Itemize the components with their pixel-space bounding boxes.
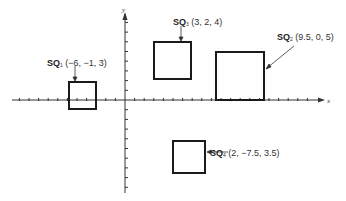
label-sq4: SQ4 (2, −7.5, 3.5) bbox=[210, 148, 280, 160]
y-axis bbox=[125, 14, 128, 193]
label-sq1-sub: 1 bbox=[60, 62, 63, 68]
label-sq3-name: SQ bbox=[173, 17, 186, 27]
label-sq1-coords: (−6, −1, 3) bbox=[65, 58, 107, 68]
label-sq2-coords: (9.5, 0, 5) bbox=[295, 32, 334, 42]
x-axis-arrow-icon bbox=[318, 98, 325, 103]
square-sq4 bbox=[173, 141, 205, 173]
arrowhead-sq2-icon bbox=[266, 64, 271, 69]
label-sq3: SQ3 (3, 2, 4) bbox=[173, 17, 222, 29]
label-sq4-coords: (2, −7.5, 3.5) bbox=[228, 148, 279, 158]
x-axis bbox=[12, 98, 318, 101]
square-sq2 bbox=[216, 52, 264, 100]
label-sq2: SQ2 (9.5, 0, 5) bbox=[277, 32, 334, 44]
label-sq2-name: SQ bbox=[277, 32, 290, 42]
label-sq1: SQ1 (−6, −1, 3) bbox=[47, 58, 107, 70]
label-sq2-sub: 2 bbox=[290, 36, 293, 42]
square-sq3 bbox=[154, 42, 191, 79]
x-axis-label: x bbox=[326, 97, 331, 105]
label-sq3-coords: (3, 2, 4) bbox=[191, 17, 222, 27]
square-sq1 bbox=[69, 82, 96, 109]
label-sq4-sub: 4 bbox=[223, 152, 226, 158]
coordinate-diagram: y x bbox=[0, 0, 346, 201]
label-sq4-name: SQ bbox=[210, 148, 223, 158]
label-sq3-sub: 3 bbox=[186, 21, 189, 27]
leader-sq2 bbox=[267, 46, 294, 68]
label-sq1-name: SQ bbox=[47, 58, 60, 68]
arrowhead-sq3-icon bbox=[179, 37, 183, 41]
arrowhead-sq1-icon bbox=[73, 77, 77, 81]
